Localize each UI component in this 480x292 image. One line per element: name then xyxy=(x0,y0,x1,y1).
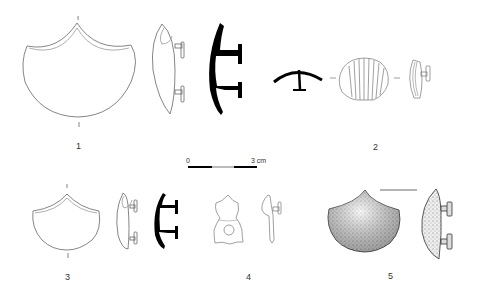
figure-5-front-view xyxy=(328,190,400,252)
figure-5-drawing xyxy=(0,0,480,292)
figure-5-side-view xyxy=(422,189,452,259)
artifact-plate: 1 2 xyxy=(0,0,480,292)
figure-5-label: 5 xyxy=(388,271,393,281)
